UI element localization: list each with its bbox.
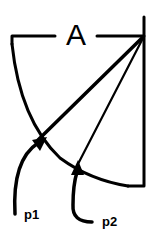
geometry-diagram: A p1 p2 bbox=[0, 0, 153, 235]
arrow-p2-shaft bbox=[73, 172, 92, 222]
label-angle-a: A bbox=[66, 18, 86, 51]
arrow-p1-shaft bbox=[15, 143, 38, 214]
ray-to-p1 bbox=[38, 37, 143, 140]
top-line-left bbox=[12, 36, 55, 44]
label-p1: p1 bbox=[24, 207, 39, 222]
ray-to-p2 bbox=[78, 40, 142, 164]
label-p2: p2 bbox=[102, 214, 117, 229]
arc bbox=[12, 44, 128, 186]
